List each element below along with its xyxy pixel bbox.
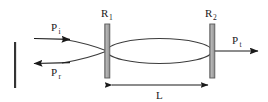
mirror-two-label: R — [205, 7, 213, 19]
incident-beam-arrow — [34, 39, 70, 40]
cavity-mode-ellipse — [107, 39, 212, 64]
cavity-length-label: L — [156, 89, 163, 101]
mirror-two — [210, 24, 215, 78]
cavity-diagram-canvas: R 1 R 2 P i P r P t L — [0, 0, 268, 102]
transmitted-power-label-subscript: t — [240, 40, 243, 49]
mirror-one — [105, 24, 110, 78]
fabry-perot-cavity-figure: R 1 R 2 P i P r P t L — [0, 0, 268, 102]
mirror-two-label-subscript: 2 — [213, 13, 217, 22]
beam-lower-tail — [62, 51, 107, 63]
mirror-one-label: R — [101, 7, 109, 19]
mirror-one-label-subscript: 1 — [109, 13, 113, 22]
reflected-power-label-subscript: r — [59, 72, 62, 81]
reflected-power-label: P — [51, 66, 57, 78]
transmitted-power-label: P — [232, 34, 238, 46]
incident-power-label: P — [51, 21, 57, 33]
incident-power-label-subscript: i — [59, 27, 61, 36]
reflected-beam-arrow — [34, 63, 70, 64]
beam-upper-tail — [62, 39, 107, 51]
left-vertical-marker — [14, 42, 16, 88]
